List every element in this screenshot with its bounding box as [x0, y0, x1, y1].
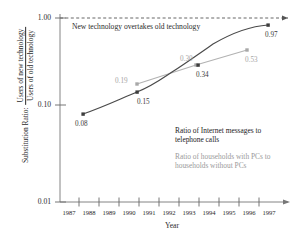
series-line-internet-messages [83, 25, 268, 114]
y-tick-label-1.00: 1.00 [25, 13, 51, 22]
x-tick-label-1995: 1995 [218, 209, 240, 216]
point-label-pc-1993: 0.30 [180, 55, 193, 63]
x-tick-label-1997: 1997 [258, 209, 280, 216]
annotation-internet-series-note: Ratio of Internet messages to telephone … [175, 126, 290, 144]
point-label-internet-1991: 0.15 [137, 98, 150, 106]
x-tick-label-1992: 1992 [158, 209, 180, 216]
substitution-ratio-chart: Substitution Ratio: Users of new technol… [0, 0, 295, 234]
series-markers-pc-households [135, 48, 248, 85]
y-tick-label-0.10: 0.10 [25, 100, 51, 109]
x-tick-label-1993: 1993 [178, 209, 200, 216]
annotation-overtake-note: New technology overtakes old technology [72, 22, 200, 31]
x-axis-arrow [283, 199, 290, 204]
x-tick-label-1994: 1994 [198, 209, 220, 216]
point-label-pc-1996: 0.53 [245, 56, 258, 64]
x-tick-label-1987: 1987 [58, 209, 80, 216]
point-label-pc-1990: 0.19 [115, 77, 128, 85]
point-label-internet-1994: 0.34 [196, 71, 209, 79]
point-label-internet-1988: 0.08 [75, 120, 88, 128]
x-tick-label-1991: 1991 [138, 209, 160, 216]
x-tick-label-1989: 1989 [98, 209, 120, 216]
x-tick-label-1996: 1996 [238, 209, 260, 216]
x-tick-label-1988: 1988 [78, 209, 100, 216]
annotation-pc-series-note: Ratio of households with PCs to househol… [175, 152, 293, 170]
y-tick-label-0.01: 0.01 [25, 197, 51, 206]
x-axis-title: Year [142, 221, 202, 230]
x-tick-label-1990: 1990 [118, 209, 140, 216]
reference-line-arrow [282, 16, 288, 21]
point-label-internet-1997: 0.97 [265, 31, 278, 39]
